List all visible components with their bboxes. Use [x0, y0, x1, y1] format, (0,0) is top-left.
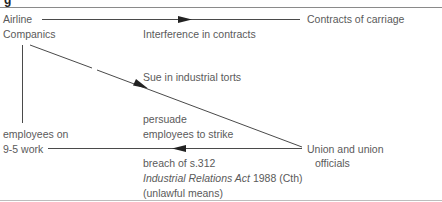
node-employees-line1: employees on [3, 128, 68, 140]
act-year: 1988 (Cth) [250, 172, 303, 184]
edge-label-persuade-line1: persuade [143, 113, 187, 125]
node-airline-line1: Airline [3, 13, 32, 25]
node-airline-line2: Companics [3, 28, 56, 40]
edge-label-unlawful-means: (unlawful means) [143, 187, 223, 199]
arrowhead-left-icon [172, 145, 186, 152]
legal-relationship-diagram: g Airline Companics Contracts of carriag… [0, 0, 442, 202]
edge-label-interference: Interference in contracts [143, 28, 256, 40]
arrowhead-right-icon [178, 16, 192, 23]
edge-label-persuade-line2: employees to strike [143, 128, 233, 140]
node-contracts-of-carriage: Contracts of carriage [307, 13, 404, 25]
arrow-interference-in-contracts [42, 16, 300, 23]
node-employees-line2: 9-5 work [3, 143, 43, 155]
edge-label-act: Industrial Relations Act 1988 (Cth) [143, 172, 303, 184]
arrow-persuade-employees [48, 145, 302, 152]
act-title: Industrial Relations Act [143, 172, 250, 184]
node-union-line2: officials [315, 157, 350, 169]
node-union-line1: Union and union [307, 143, 383, 155]
edge-label-breach: breach of s.312 [143, 157, 215, 169]
edge-label-sue: Sue in industrial torts [143, 71, 241, 83]
